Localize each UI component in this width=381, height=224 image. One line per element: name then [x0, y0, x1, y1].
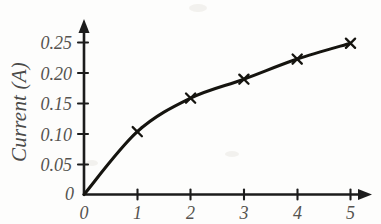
y-tick-label-0.05: 0.05	[41, 155, 73, 175]
x-axis-arrow-icon	[358, 189, 372, 200]
x-tick-label-1: 1	[133, 203, 142, 223]
y-axis-arrow-icon	[79, 19, 90, 33]
origin-label: 0	[65, 184, 74, 204]
paper-smudge	[189, 4, 207, 12]
data-point-markers	[133, 39, 355, 137]
x-tick-label-0: 0	[80, 203, 89, 223]
y-tick-label-0.20: 0.20	[41, 64, 73, 84]
data-series-line	[84, 43, 351, 194]
paper-smudge	[225, 151, 239, 157]
x-tick-label-3: 3	[239, 203, 249, 223]
data-point-marker-1	[133, 127, 142, 136]
x-tick-label-2: 2	[186, 203, 195, 223]
line-chart-canvas: 0.25 0.20 0.15 0.10 0.05 0 0 1 2 3 4 5 C…	[0, 0, 381, 224]
y-tick-label-0.10: 0.10	[41, 125, 73, 145]
x-tick-label-5: 5	[346, 203, 355, 223]
y-axis-title: Current (A)	[7, 62, 31, 162]
y-tick-label-0.15: 0.15	[41, 94, 73, 114]
chart-figure: 0.25 0.20 0.15 0.10 0.05 0 0 1 2 3 4 5 C…	[0, 0, 381, 224]
x-tick-label-4: 4	[293, 203, 302, 223]
y-tick-label-0.25: 0.25	[41, 33, 73, 53]
